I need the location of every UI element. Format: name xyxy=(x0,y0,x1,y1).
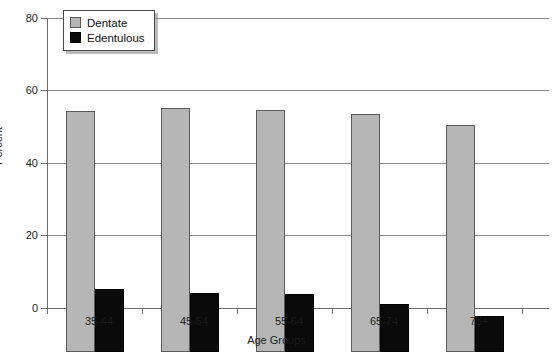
y-tick-60 xyxy=(41,90,47,91)
y-tick-20 xyxy=(41,235,47,236)
gridline-60 xyxy=(47,90,549,91)
chart-legend: Dentate Edentulous xyxy=(63,10,155,51)
legend-item-dentate: Dentate xyxy=(70,15,145,30)
x-tick-label-45-54: 45-54 xyxy=(180,315,208,327)
y-tick-label-40: 40 xyxy=(2,157,38,169)
x-tick-5 xyxy=(522,309,523,314)
x-tick-1 xyxy=(142,309,143,314)
y-tick-label-0: 0 xyxy=(2,302,38,314)
y-tick-label-80: 80 xyxy=(2,12,38,24)
legend-label-dentate: Dentate xyxy=(87,17,127,29)
y-tick-label-20: 20 xyxy=(2,229,38,241)
x-tick-2 xyxy=(237,309,238,314)
edentulous-swatch-icon xyxy=(70,32,81,43)
x-axis-title: Age Groups xyxy=(0,334,553,346)
y-axis-tick-labels: 80 60 40 20 0 xyxy=(0,0,38,352)
dentate-swatch-icon xyxy=(70,17,81,28)
x-tick-4 xyxy=(427,309,428,314)
y-tick-80 xyxy=(41,18,47,19)
x-tick-3 xyxy=(332,309,333,314)
bar-chart: 80 60 40 20 0 Percent 35-44 45-54 55-64 … xyxy=(0,0,553,352)
legend-item-edentulous: Edentulous xyxy=(70,30,145,45)
x-tick-label-75plus: 75+ xyxy=(470,315,489,327)
x-tick-label-55-64: 55-64 xyxy=(275,315,303,327)
y-axis-line xyxy=(47,18,48,309)
legend-label-edentulous: Edentulous xyxy=(87,32,145,44)
x-tick-label-35-44: 35-44 xyxy=(85,315,113,327)
x-tick-label-65-74: 65-74 xyxy=(370,315,398,327)
y-axis-title: Percent xyxy=(0,127,4,165)
y-tick-40 xyxy=(41,163,47,164)
y-tick-label-60: 60 xyxy=(2,84,38,96)
x-tick-0 xyxy=(47,309,48,314)
